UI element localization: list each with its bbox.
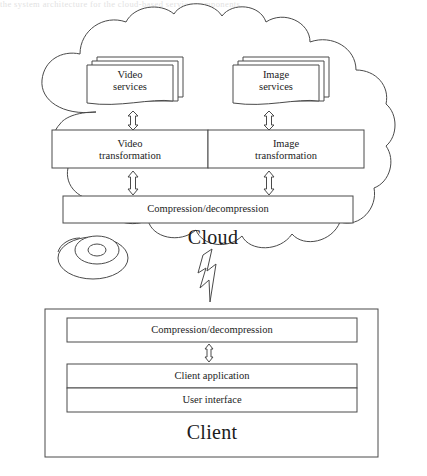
image-transformation-line2: transformation: [208, 150, 364, 162]
video-transformation-line1: Video: [52, 138, 208, 150]
user-interface-label: User interface: [67, 394, 357, 406]
client-compression-label: Compression/decompression: [67, 324, 357, 336]
image-transformation-line1: Image: [208, 138, 364, 150]
client-application-label: Client application: [67, 370, 357, 382]
image-services-label: Image services: [233, 69, 319, 93]
storage-disc-icon: [58, 236, 128, 279]
video-transformation-line2: transformation: [52, 150, 208, 162]
video-services-line2: services: [87, 81, 173, 93]
diagram-root: the system architecture for the cloud-ba…: [0, 0, 427, 476]
video-services-label: Video services: [87, 69, 173, 93]
cloud-title: Cloud: [163, 226, 263, 248]
lightning-link-cloud-to-client: [198, 249, 216, 302]
image-services-line1: Image: [233, 69, 319, 81]
video-transformation-label: Video transformation: [52, 138, 208, 162]
client-title: Client: [162, 421, 262, 443]
image-services-line2: services: [233, 81, 319, 93]
cloud-compression-label: Compression/decompression: [63, 203, 353, 215]
image-transformation-label: Image transformation: [208, 138, 364, 162]
video-services-line1: Video: [87, 69, 173, 81]
